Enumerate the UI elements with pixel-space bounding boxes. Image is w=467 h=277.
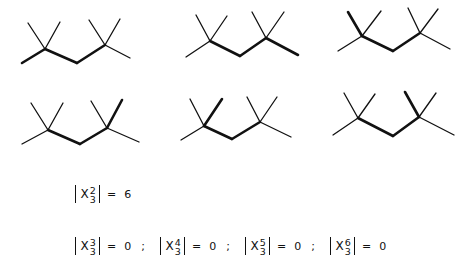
bold-bond [240,38,266,56]
abs-bar-left [160,237,161,255]
separator: ; [226,240,230,253]
formula-term: X 6 3 = 0 [327,236,386,256]
bond [362,11,381,36]
bold-bond [80,128,107,144]
bond [358,94,375,118]
equals-sign: = [362,240,371,253]
bond [91,101,107,128]
bond [420,33,450,49]
abs-bar-right [184,237,185,255]
indices: 2 3 [90,186,96,204]
value: 0 [379,240,386,253]
equals-sign: = [277,240,286,253]
bold-bond [393,117,419,136]
bond [196,15,210,41]
separator: ; [311,240,315,253]
bond [247,97,260,122]
variable: X [80,187,88,201]
bond [190,99,204,126]
bold-bond [77,45,105,63]
bold-bond [348,12,362,36]
bold-bond [393,33,420,51]
formula-term: X 5 3 = 0 ; [242,236,327,256]
bond [48,103,63,130]
abs-bar-right [269,237,270,255]
bold-bond [204,99,222,126]
bold-bond [204,126,232,139]
indices: 4 3 [175,238,181,256]
bond [260,122,291,137]
bond [333,118,358,135]
indices: 3 3 [90,238,96,256]
formula-line-1: X 2 3 = 6 [72,184,131,204]
abs-bar-left [75,185,76,203]
bond [89,20,105,45]
abs-bar-right [99,237,100,255]
subscript: 3 [90,247,96,256]
bold-bond [362,36,393,51]
abs-bar-left [75,237,76,255]
bond [419,93,436,117]
bold-bond [22,49,45,63]
bond [419,117,454,135]
bond [344,93,358,118]
molecule-5 [181,97,291,140]
bold-bond [210,41,240,56]
bold-bond [48,130,80,144]
formula-term: X 4 3 = 0 ; [157,236,242,256]
bond [210,16,227,41]
molecule-6 [333,92,454,136]
molecule-diagrams [0,0,467,170]
value: 0 [209,240,216,253]
bond [105,45,130,58]
variable: X [335,239,343,253]
bond [408,8,420,33]
equals-sign: = [107,240,116,253]
abs-bar-right [99,185,100,203]
bond [252,12,266,38]
equals-sign: = [192,240,201,253]
bond [31,103,48,130]
formula-term: X 3 3 = 0 ; [72,236,157,256]
molecule-4 [22,100,139,144]
molecule-2 [186,12,298,57]
bond [338,36,362,51]
abs-bar-left [245,237,246,255]
subscript: 3 [345,247,351,256]
value: 0 [294,240,301,253]
abs-bar-left [330,237,331,255]
bond [266,12,284,38]
bond [186,41,210,57]
bold-bond [45,49,77,63]
bold-bond [358,118,393,136]
variable: X [80,239,88,253]
bond [22,130,48,144]
formula-term: X 2 3 = 6 [72,184,131,204]
variable: X [165,239,173,253]
subscript: 3 [260,247,266,256]
bond [45,22,60,49]
separator: ; [141,240,145,253]
bold-bond [266,38,298,55]
indices: 5 3 [260,238,266,256]
bond [105,19,120,45]
bond [420,9,438,33]
subscript: 3 [90,195,96,204]
bond [181,126,204,140]
bond [28,23,45,49]
bold-bond [405,92,419,117]
variable: X [250,239,258,253]
molecule-1 [22,19,130,63]
indices: 6 3 [345,238,351,256]
equals-sign: = [107,188,116,201]
formula-line-2: X 3 3 = 0 ; X 4 3 = 0 ; X 5 3 = 0 ; X [72,236,386,256]
bold-bond [107,100,122,128]
value: 0 [124,240,131,253]
molecule-3 [338,8,450,51]
bold-bond [232,122,260,139]
bond [260,97,277,122]
bond [107,128,139,142]
abs-bar-right [354,237,355,255]
value: 6 [124,188,131,201]
subscript: 3 [175,247,181,256]
